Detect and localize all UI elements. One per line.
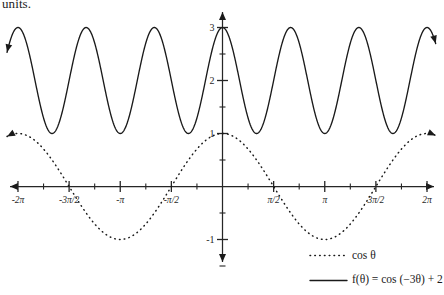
y-axis-top-arrowhead — [219, 12, 226, 20]
cos-curve-right-arrowhead — [427, 129, 436, 135]
legend-label-cos-theta: cos θ — [352, 249, 376, 261]
y-tick-label: -1 — [206, 234, 214, 245]
x-tick-label: -2π — [12, 195, 25, 205]
x-tick-label: 2π — [422, 195, 432, 205]
cos-curve-left-arrowhead — [7, 130, 16, 137]
legend — [310, 256, 347, 281]
x-tick-label: π/2 — [268, 195, 280, 205]
x-tick-label: 3π/2 — [366, 195, 384, 205]
axes-group — [10, 12, 434, 262]
f-curve-left-arrowhead — [6, 44, 13, 53]
y-tick-label: 2 — [210, 75, 215, 86]
x-tick-label: π — [322, 195, 327, 205]
f-curve-right-arrowhead — [430, 35, 436, 44]
legend-label-f-theta: f(θ) = cos (−3θ) + 2 — [352, 273, 443, 285]
y-axis-bottom-arrowhead — [219, 254, 226, 262]
trig-function-plot: -2π-3π/2-π-π/2π/2π3π/22π 321-1 — [0, 0, 444, 295]
y-tick-label: 3 — [210, 22, 215, 33]
x-tick-label: -π/2 — [164, 195, 180, 205]
x-axis-tick-labels: -2π-3π/2-π-π/2π/2π3π/22π — [12, 195, 432, 205]
figure-root: units. -2π-3π/2-π-π/2π/2π3π/22π 321-1 co — [0, 0, 444, 295]
x-axis-left-arrowhead — [10, 183, 18, 190]
x-tick-label: -π — [116, 195, 124, 205]
x-tick-label: -3π/2 — [59, 195, 79, 205]
